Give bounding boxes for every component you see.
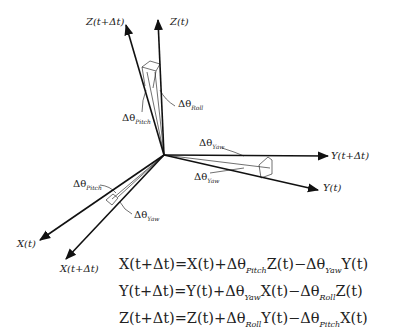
x-t-label: X(t) bbox=[17, 238, 36, 249]
equation-z: Z(t+Δt)=Z(t)+ΔθRollY(t)−ΔθPitchX(t) bbox=[119, 308, 368, 333]
delta-theta-roll-label: ΔθRoll bbox=[178, 98, 203, 111]
y-dt-axis bbox=[164, 155, 328, 156]
z-t-plus-dt-label: Z(t+Δt) bbox=[86, 16, 124, 27]
delta-theta-yaw-label-top: ΔθYaw bbox=[199, 137, 224, 150]
update-equations: X(t+Δt)=X(t)+ΔθPitchZ(t)−ΔθYawY(t) Y(t+Δ… bbox=[119, 254, 368, 333]
x-t-plus-dt-label: X(t+Δt) bbox=[60, 263, 99, 274]
delta-theta-pitch-label-top: ΔθPitch bbox=[122, 112, 151, 125]
y-t-axis bbox=[164, 155, 318, 190]
equation-y: Y(t+Δt)=Y(t)+ΔθYawX(t)−ΔθRollZ(t) bbox=[119, 281, 368, 308]
equation-x: X(t+Δt)=X(t)+ΔθPitchZ(t)−ΔθYawY(t) bbox=[119, 254, 368, 281]
x-dt-axis bbox=[66, 155, 164, 259]
delta-theta-pitch-label-left: ΔθPitch bbox=[73, 178, 102, 191]
delta-theta-yaw-label-left: ΔθYaw bbox=[134, 209, 159, 222]
y-t-label: Y(t) bbox=[323, 182, 341, 193]
delta-theta-yaw-label-right: ΔθYaw bbox=[194, 171, 219, 184]
z-t-label: Z(t) bbox=[170, 16, 189, 27]
x-t-axis bbox=[40, 155, 164, 240]
y-t-plus-dt-label: Y(t+Δt) bbox=[331, 150, 369, 161]
